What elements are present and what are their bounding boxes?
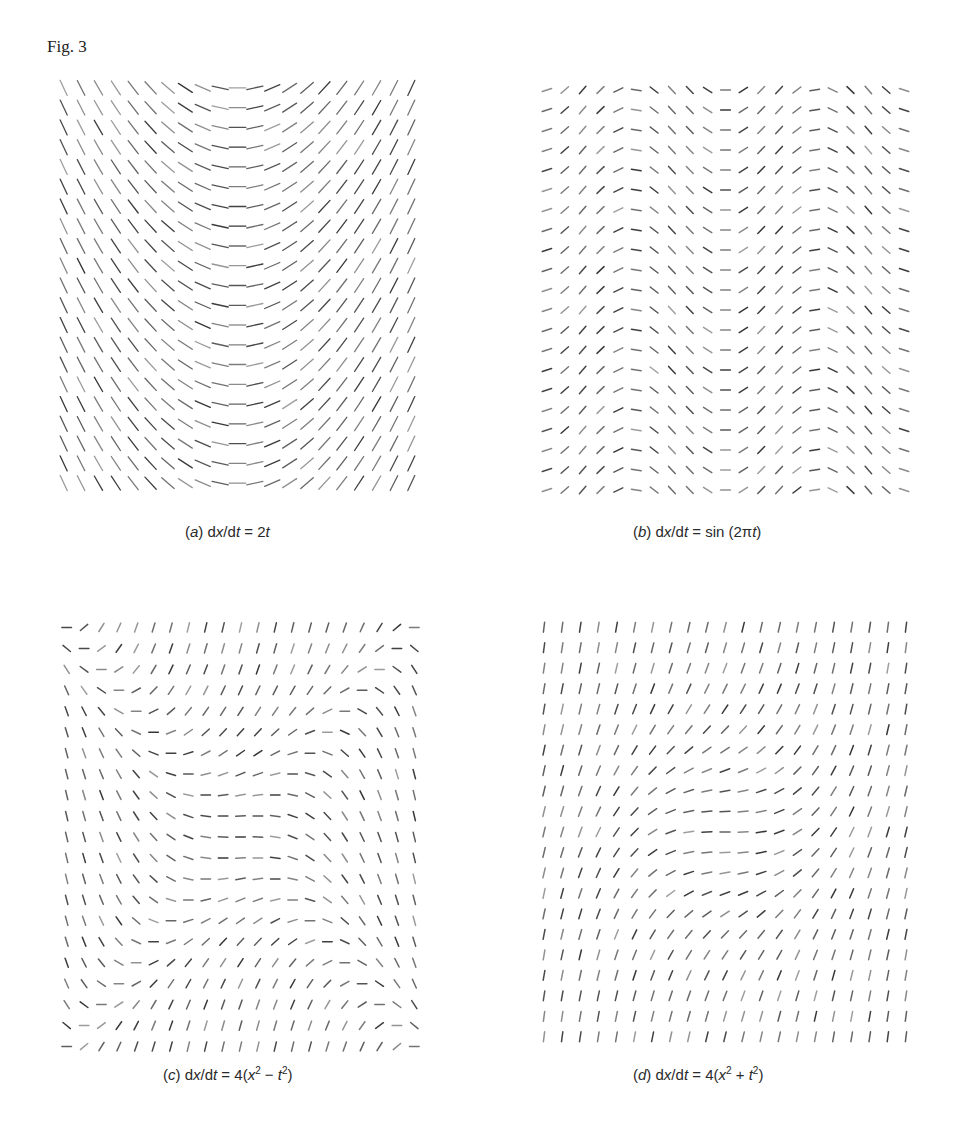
slope-field-svg <box>58 617 423 1057</box>
caption-panel-a: (a) dx/dt = 2t <box>185 523 270 540</box>
slope-field-svg <box>538 80 913 500</box>
caption-text: ) d <box>646 523 664 540</box>
variable: x <box>718 1066 726 1083</box>
slope-field-svg <box>535 617 915 1047</box>
slope-field-svg <box>55 78 420 493</box>
caption-text: ) d <box>176 1066 194 1083</box>
caption-text: ) d <box>198 523 216 540</box>
slope-field-panel-a <box>55 78 420 493</box>
caption-text: ) d <box>646 1066 664 1083</box>
variable: t <box>265 523 269 540</box>
figure-label: Fig. 3 <box>47 37 87 57</box>
slope-field-panel-d <box>535 617 915 1047</box>
caption-panel-b: (b) dx/dt = sin (2πt) <box>633 523 761 540</box>
caption-text: = sin (2π <box>688 523 752 540</box>
caption-text: /d <box>671 1066 684 1083</box>
caption-text: /d <box>223 523 236 540</box>
caption-text: = 4( <box>688 1066 718 1083</box>
caption-text: = 4( <box>217 1066 247 1083</box>
caption-text: ) <box>756 523 761 540</box>
caption-panel-d: (d) dx/dt = 4(x2 + t2) <box>633 1066 763 1083</box>
caption-panel-c: (c) dx/dt = 4(x2 − t2) <box>163 1066 293 1083</box>
caption-text: /d <box>201 1066 214 1083</box>
caption-text: + <box>732 1066 749 1083</box>
panel-tag: c <box>168 1066 176 1083</box>
variable: x <box>193 1066 201 1083</box>
caption-text: = 2 <box>240 523 265 540</box>
caption-text: − <box>261 1066 278 1083</box>
caption-text: /d <box>671 523 684 540</box>
slope-field-panel-c <box>58 617 423 1057</box>
caption-text: ) <box>758 1066 763 1083</box>
caption-text: ) <box>288 1066 293 1083</box>
slope-field-panel-b <box>538 80 913 500</box>
